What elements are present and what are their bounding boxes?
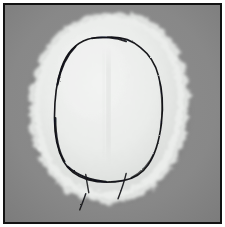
photo-frame	[3, 3, 222, 224]
photograph-figure	[0, 0, 225, 227]
film-grain-overlay	[5, 5, 220, 222]
photograph-image	[5, 5, 220, 222]
